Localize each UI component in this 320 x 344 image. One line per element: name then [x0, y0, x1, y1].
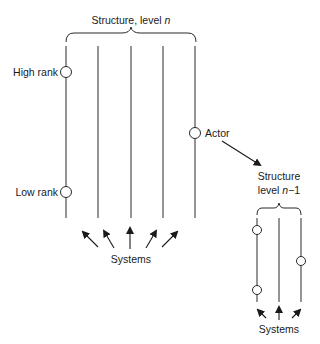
actor-label: Actor: [205, 127, 230, 139]
high-rank-label: High rank: [13, 66, 59, 78]
actor-node: [190, 128, 201, 139]
actor-to-substructure-arrow: [222, 141, 260, 165]
sub-structure-title-line2: level n−1: [258, 184, 300, 196]
sub-systems-arrows: [258, 307, 300, 320]
arrow-up-left-icon: [258, 310, 266, 318]
sub-structure-brace: [257, 203, 301, 215]
arrow-up-right-icon: [162, 232, 177, 247]
main-systems-label: Systems: [111, 253, 151, 265]
low-rank-node: [61, 187, 72, 198]
sub-node: [253, 226, 262, 235]
main-structure-lines: [66, 46, 195, 218]
main-structure-brace: [66, 27, 196, 42]
high-rank-node: [61, 67, 72, 78]
main-structure-title: Structure, level n: [92, 14, 171, 26]
arrow-up-left-icon: [104, 231, 114, 248]
low-rank-label: Low rank: [15, 186, 58, 198]
sub-structure-title-line1: Structure: [258, 170, 301, 182]
sub-systems-label: Systems: [259, 323, 299, 335]
sub-node: [253, 286, 262, 295]
arrow-up-right-icon: [292, 310, 300, 318]
main-systems-arrows: [83, 228, 177, 249]
sub-node: [297, 257, 306, 266]
arrow-up-left-icon: [83, 232, 98, 247]
arrow-up-right-icon: [146, 231, 156, 248]
sub-structure-lines: [257, 218, 301, 302]
structure-diagram: Structure, level n High rank Low rank Ac…: [0, 0, 320, 344]
